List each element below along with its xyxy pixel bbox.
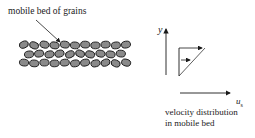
grain [54, 49, 65, 58]
grain [105, 50, 115, 58]
grain [39, 40, 50, 49]
grain [110, 59, 121, 68]
grain [100, 58, 111, 67]
caption-line-1: velocity distribution [165, 107, 238, 118]
grain [101, 41, 111, 48]
grain [60, 59, 70, 67]
grain [40, 59, 49, 66]
grain [50, 60, 60, 67]
y-axis-label: y [158, 24, 162, 35]
grain [121, 40, 131, 48]
grain [80, 58, 90, 67]
grain [29, 41, 40, 50]
grain [70, 59, 80, 67]
grain [91, 42, 100, 49]
grain [18, 40, 29, 50]
grain [60, 41, 70, 49]
grain [121, 58, 132, 67]
grain [49, 41, 59, 49]
grain [24, 50, 34, 58]
grain [90, 59, 101, 68]
caption-line-2: in mobile bed [165, 118, 238, 129]
grain [29, 60, 39, 67]
grain-bed [18, 40, 131, 68]
grain [44, 50, 54, 59]
grain [19, 59, 29, 67]
caption: velocity distribution in mobile bed [165, 107, 238, 129]
pointer-arrow [36, 20, 60, 42]
grain [70, 42, 80, 50]
grain [75, 49, 86, 58]
grain [64, 50, 75, 59]
grain [111, 41, 121, 49]
grain [80, 41, 89, 48]
grain [34, 49, 44, 57]
grain [95, 49, 105, 58]
grain [116, 50, 126, 58]
profile-diagonal [179, 48, 205, 76]
grain [85, 50, 96, 59]
